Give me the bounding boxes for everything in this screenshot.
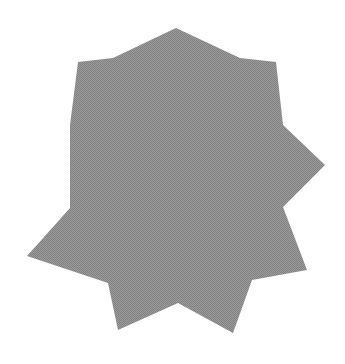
figure-canvas: Eight-pointed star (octagram) A grey eig… (0, 0, 345, 364)
octagram-star-figure: Eight-pointed star (octagram) A grey eig… (0, 0, 345, 364)
